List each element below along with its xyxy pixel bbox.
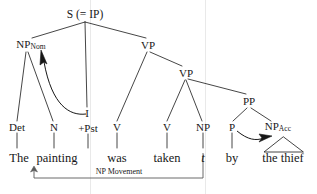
branch-vp-to-v-main: [167, 80, 185, 121]
node-np-nom: NPNom: [16, 39, 45, 51]
node-np-nom-subscript: Nom: [30, 42, 45, 51]
branch-pp-to-np-acc: [251, 108, 271, 121]
word-trace-t: t: [201, 152, 204, 165]
node-v-main: V: [163, 122, 171, 133]
node-pp: PP: [243, 96, 255, 107]
branch-pp-to-p: [233, 108, 247, 121]
node-np-nom-text: NP: [16, 38, 30, 50]
node-i: I: [85, 108, 89, 119]
branch-vp-to-v-aux: [117, 52, 147, 121]
branch-s-to-np: [32, 22, 85, 38]
node-n: N: [50, 122, 58, 133]
word-taken: taken: [153, 152, 180, 165]
node-np-acc: NPAcc: [265, 121, 291, 133]
branch-vp-to-vp: [150, 52, 182, 66]
p-to-np-acc-arrowhead: [259, 134, 272, 142]
word-painting: painting: [37, 152, 78, 165]
word-by: by: [226, 152, 239, 165]
node-pst: +Pst: [78, 123, 98, 134]
node-np-acc-text: NP: [265, 120, 279, 132]
node-np-trace: NP: [196, 122, 210, 133]
infl-to-np-nom-arrowhead: [40, 50, 47, 65]
tree-lines: [0, 0, 317, 194]
branch-s-to-vp: [85, 22, 146, 38]
node-det: Det: [9, 122, 25, 133]
np-acc-triangle: [264, 137, 303, 152]
node-vp-upper: VP: [141, 40, 155, 51]
word-the: The: [9, 152, 28, 165]
node-v-aux: V: [113, 122, 121, 133]
branch-np-to-det: [17, 52, 26, 121]
node-vp-lower: VP: [179, 68, 193, 79]
branch-s-to-i: [85, 22, 87, 107]
word-was: was: [107, 152, 126, 165]
node-np-acc-subscript: Acc: [279, 124, 291, 133]
syntax-tree-figure: S (= IP) NPNom VP VP PP I Det N +Pst V V…: [0, 0, 317, 194]
np-movement-label: NP Movement: [94, 168, 145, 176]
node-p: P: [229, 122, 235, 133]
infl-to-np-nom-curve: [44, 62, 86, 114]
node-s-ip: S (= IP): [67, 9, 104, 21]
word-the-thief: the thief: [262, 152, 303, 165]
branch-vp-to-pp: [188, 79, 246, 94]
branch-vp-to-np-trace: [186, 80, 202, 121]
